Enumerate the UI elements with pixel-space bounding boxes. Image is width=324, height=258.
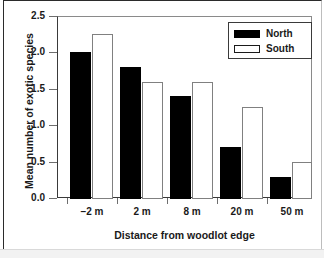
figure-bottom-band: [0, 249, 324, 258]
x-axis-title: Distance from woodlot edge: [57, 229, 312, 241]
y-tick-label: 1.5: [5, 84, 45, 94]
bar-north-50m: [270, 177, 291, 199]
legend: North South: [228, 22, 312, 59]
y-tick-label: 2.0: [5, 47, 45, 57]
bar-south-50m: [292, 162, 312, 199]
y-tick-mark: [49, 162, 57, 163]
legend-item-south: South: [234, 41, 311, 56]
y-tick-label: 1.0: [5, 120, 45, 130]
y-tick-mark: [49, 16, 57, 17]
legend-label-south: South: [266, 44, 294, 54]
bar-south-2m: [142, 82, 163, 199]
legend-swatch-north-icon: [234, 30, 260, 38]
bar-south-minus2m: [92, 34, 113, 199]
bar-north-8m: [170, 96, 191, 199]
x-tick-mark: [67, 198, 68, 204]
y-tick-mark: [49, 52, 57, 53]
legend-label-north: North: [266, 29, 293, 39]
y-tick-mark: [49, 198, 57, 199]
x-tick-mark: [267, 198, 268, 204]
y-axis-title: Mean number of exotic species: [23, 11, 35, 211]
legend-swatch-south-icon: [234, 45, 260, 53]
y-tick-label: 0.5: [5, 157, 45, 167]
bar-north-minus2m: [70, 52, 91, 199]
legend-item-north: North: [234, 26, 311, 41]
y-tick-mark: [49, 125, 57, 126]
bar-south-20m: [242, 107, 263, 199]
x-tick-mark: [217, 198, 218, 204]
bar-south-8m: [192, 82, 213, 199]
bar-north-2m: [120, 67, 141, 199]
x-tick-mark: [167, 198, 168, 204]
figure-container: Mean number of exotic species 2.5 2.0 1.…: [0, 0, 324, 258]
x-tick-mark: [117, 198, 118, 204]
y-tick-label: 0.0: [5, 193, 45, 203]
y-tick-label: 2.5: [5, 11, 45, 21]
x-tick-label-50m: 50 m: [262, 206, 322, 217]
bar-north-20m: [220, 147, 241, 199]
y-tick-mark: [49, 89, 57, 90]
